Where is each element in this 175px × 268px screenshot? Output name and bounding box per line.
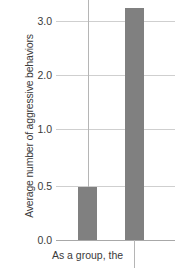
y-tick-label-0point5: 0.5 xyxy=(37,180,52,192)
y-axis-title: Average number of aggressive behaviors xyxy=(23,11,35,241)
y-tick-label-2: 2.0 xyxy=(37,69,52,81)
y-tick-label-1: 1.0 xyxy=(37,123,52,135)
gridline-3: 3.0 xyxy=(56,21,175,22)
bar-2 xyxy=(125,8,144,240)
bar-chart: Average number of aggressive behaviors 3… xyxy=(0,0,175,268)
bar-1 xyxy=(78,187,97,240)
gridline-0point5: 0.5 xyxy=(56,186,175,187)
y-tick-label-0: 0.0 xyxy=(37,234,52,246)
gridline-2: 2.0 xyxy=(56,75,175,76)
leader-line-bar-1 xyxy=(88,0,89,188)
gridline-1: 1.0 xyxy=(56,129,175,130)
y-tick-label-3: 3.0 xyxy=(37,15,52,27)
x-axis-baseline: 0.0 xyxy=(56,240,175,241)
plot-area: 3.0 2.0 1.0 0.5 0.0 xyxy=(56,0,175,241)
chart-caption: As a group, the xyxy=(0,249,175,261)
